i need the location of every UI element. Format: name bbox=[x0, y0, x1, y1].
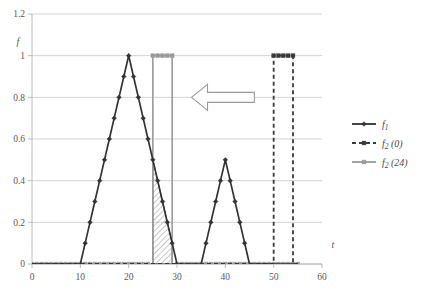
y-tick-label: 0 bbox=[20, 259, 25, 269]
x-tick-labels: 0102030405060 bbox=[30, 272, 327, 282]
legend-label: f1 bbox=[382, 119, 389, 133]
legend-item: f2 (0) bbox=[352, 138, 403, 152]
y-tick-label: 1 bbox=[20, 51, 25, 61]
grid-lines bbox=[32, 14, 322, 264]
y-tick-label: 0.4 bbox=[13, 176, 25, 186]
legend-item: f1 bbox=[352, 119, 389, 133]
y-tick-label: 0.8 bbox=[13, 93, 25, 103]
y-axis-title: f bbox=[17, 36, 21, 47]
x-tick-label: 60 bbox=[317, 272, 327, 282]
left-arrow-annotation bbox=[192, 84, 255, 110]
legend-item: f2 (24) bbox=[352, 157, 408, 171]
legend-label: f2 (24) bbox=[382, 157, 408, 171]
plot-frame bbox=[28, 14, 322, 268]
chart-root: 00.20.40.60.811.2 0102030405060 f t f1f2… bbox=[0, 0, 422, 291]
chart-legend: f1f2 (0)f2 (24) bbox=[352, 119, 408, 171]
y-tick-labels: 00.20.40.60.811.2 bbox=[13, 9, 25, 269]
line-chart: 00.20.40.60.811.2 0102030405060 f t f1f2… bbox=[0, 0, 422, 291]
x-tick-label: 40 bbox=[221, 272, 231, 282]
y-tick-label: 0.2 bbox=[13, 218, 25, 228]
x-tick-label: 50 bbox=[269, 272, 279, 282]
x-axis-title: t bbox=[332, 239, 335, 250]
x-tick-label: 30 bbox=[172, 272, 182, 282]
y-tick-label: 0.6 bbox=[13, 134, 25, 144]
legend-label: f2 (0) bbox=[382, 138, 403, 152]
x-tick-label: 0 bbox=[30, 272, 35, 282]
y-tick-label: 1.2 bbox=[13, 9, 25, 19]
x-tick-label: 20 bbox=[124, 272, 134, 282]
x-tick-label: 10 bbox=[76, 272, 86, 282]
